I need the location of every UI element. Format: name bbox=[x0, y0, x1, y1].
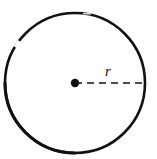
center-point-dot bbox=[71, 79, 79, 87]
circle-radius-figure: r bbox=[0, 0, 157, 159]
radius-label: r bbox=[105, 64, 111, 79]
circle-outline-fade-top bbox=[83, 13, 91, 14]
figure-canvas bbox=[0, 0, 157, 159]
figure-background bbox=[0, 0, 157, 159]
